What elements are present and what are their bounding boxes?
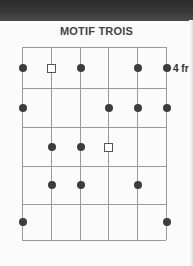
fret-position-label: 4 fr [173,63,189,74]
note-dot-marker [163,64,171,72]
fretboard-grid [0,0,193,266]
note-dot-marker [105,104,113,112]
note-dot-marker [134,181,142,189]
root-square-marker [47,64,56,73]
note-dot-marker [163,104,171,112]
note-dot-marker [19,64,27,72]
page-edge [189,20,193,266]
note-dot-marker [163,218,171,226]
note-dot-marker [77,64,85,72]
note-dot-marker [19,218,27,226]
note-dot-marker [77,181,85,189]
note-dot-marker [19,104,27,112]
note-dot-marker [48,143,56,151]
note-dot-marker [134,64,142,72]
root-square-marker [104,143,113,152]
note-dot-marker [77,143,85,151]
note-dot-marker [48,181,56,189]
note-dot-marker [134,104,142,112]
